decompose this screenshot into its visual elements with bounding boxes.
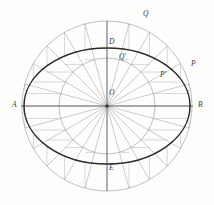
radial-line (85, 24, 107, 106)
radial-line (47, 106, 107, 166)
radial-line (107, 64, 181, 107)
point-label-b: B (198, 101, 203, 109)
radial-line (33, 64, 107, 107)
radial-line (47, 46, 107, 106)
radial-line (107, 46, 167, 106)
geometry-canvas (0, 0, 214, 205)
ellipse-construction-figure: ABODEQQ'P'P (0, 0, 214, 205)
radial-line (65, 106, 108, 180)
point-label-e: E (109, 164, 114, 172)
center-point-dot (105, 104, 108, 107)
point-label-d: D (109, 38, 115, 46)
radial-line (107, 84, 189, 106)
point-label-a: A (12, 101, 17, 109)
radial-line (107, 106, 167, 166)
point-label-qp: Q' (119, 53, 126, 61)
radial-line (33, 106, 107, 149)
center-dot-group (105, 104, 108, 107)
radial-line (85, 106, 107, 188)
point-label-o: O (109, 89, 115, 97)
point-label-pp: P' (160, 71, 167, 79)
radial-line (25, 84, 107, 106)
radial-line (25, 106, 107, 128)
point-label-q: Q (143, 10, 149, 18)
radial-line (107, 106, 129, 188)
point-label-p: P (191, 60, 196, 68)
radial-line (107, 106, 181, 149)
radial-line (107, 106, 189, 128)
radial-line (65, 32, 108, 106)
